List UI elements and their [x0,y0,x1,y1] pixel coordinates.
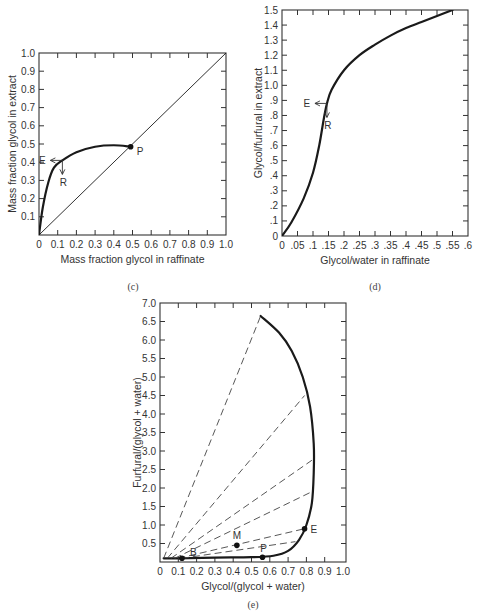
y-tick-label: 1.5 [264,5,278,16]
y-tick-label: 0.6 [21,120,35,131]
point-marker-p [260,554,266,560]
chart-c: 00.10.20.30.40.50.60.70.80.91.00.10.20.3… [6,48,233,294]
point-label-m: M [233,530,241,541]
x-tick-label: 0.7 [281,566,295,577]
chart-d: 0.05.1.15.2.25.3.35.4.45.5.55.60.1.2.3.4… [252,5,473,294]
x-tick-label: 0 [157,566,163,577]
y-tick-label: .6 [270,140,279,151]
y-axis-title: Glycol/furfural in extract [252,68,264,178]
y-tick-label: 1.3 [264,35,278,46]
y-tick-label: 0.5 [21,139,35,150]
plot-frame [160,303,346,562]
y-tick-label: 0.4 [21,157,35,168]
y-axis-title: Furfural/(glycol + water) [131,377,143,488]
point-marker-m [234,543,240,549]
x-tick-label: 0.9 [200,239,214,250]
curve-line [282,10,453,236]
x-tick-label: 1.0 [219,239,233,250]
y-tick-label: 1.0 [264,80,278,91]
x-tick-label: 0.4 [107,239,121,250]
point-label-r: R [324,120,331,131]
tie-line [164,316,261,558]
y-tick-label: 0.1 [21,211,35,222]
x-tick-label: 0.3 [88,239,102,250]
y-tick-label: 1.0 [21,48,35,59]
x-tick-label: .5 [433,240,442,251]
x-tick-label: .6 [464,240,473,251]
y-tick-label: .1 [270,215,279,226]
x-axis-title: Mass fraction glycol in raffinate [61,253,205,265]
x-tick-label: .3 [371,240,380,251]
y-tick-label: 0.5 [142,538,156,549]
x-tick-label: 0.9 [318,566,332,577]
x-tick-label: 0.1 [171,566,185,577]
y-tick-label: 3.5 [142,427,156,438]
x-tick-label: .15 [322,240,336,251]
x-tick-label: .35 [384,240,398,251]
y-tick-label: 2.0 [142,483,156,494]
point-label-e: E [39,155,46,166]
point-label-p: P [137,146,144,157]
x-tick-label: 0.5 [245,566,259,577]
x-tick-label: 0.1 [51,239,65,250]
y-tick-label: .9 [270,95,279,106]
chart-e: 00.10.20.30.40.50.60.70.80.91.00.51.01.5… [131,298,350,612]
point-label-b: B [190,547,197,558]
y-tick-label: 7.0 [142,298,156,309]
x-tick-label: 0.8 [182,239,196,250]
y-tick-label: 1.2 [264,50,278,61]
y-tick-label: 4.0 [142,409,156,420]
x-tick-label: .1 [309,240,318,251]
figure-caption: (d) [369,281,381,293]
x-tick-label: 0.6 [263,566,277,577]
x-tick-label: .25 [353,240,367,251]
point-label-e: E [304,98,311,109]
x-tick-label: .05 [291,240,305,251]
x-tick-label: 0.2 [190,566,204,577]
y-tick-label: 2.5 [142,464,156,475]
y-tick-label: 0.8 [21,84,35,95]
y-tick-label: 1.1 [264,65,278,76]
figure-caption: (e) [247,599,258,611]
y-tick-label: .3 [270,185,279,196]
x-tick-label: 0.6 [144,239,158,250]
point-marker-p [128,144,134,150]
y-tick-label: 5.5 [142,353,156,364]
y-tick-label: .2 [270,200,279,211]
x-tick-label: 0.7 [163,239,177,250]
y-tick-label: .5 [270,155,279,166]
figure-caption: (c) [127,281,138,293]
x-tick-label: 0.8 [299,566,313,577]
x-tick-label: 1.0 [336,566,350,577]
y-tick-label: 1.4 [264,20,278,31]
point-marker-e [302,526,308,532]
y-tick-label: 6.5 [142,316,156,327]
x-tick-label: 0 [36,239,42,250]
figure-canvas: 00.10.20.30.40.50.60.70.80.91.00.10.20.3… [0,0,477,613]
x-tick-label: .4 [402,240,411,251]
x-axis-title: Glycol/water in raffinate [320,254,430,266]
point-label-p: P [260,543,267,554]
y-tick-label: .8 [270,110,279,121]
y-tick-label: 5.0 [142,372,156,383]
y-tick-label: 1.5 [142,501,156,512]
point-label-r: R [60,177,67,188]
x-axis-title: Glycol/(glycol + water) [201,580,305,592]
point-label-e: E [311,524,318,535]
y-tick-label: 0.9 [21,66,35,77]
y-axis-title: Mass fraction glycol in extract [6,75,18,213]
x-tick-label: 0.2 [69,239,83,250]
x-tick-label: 0.3 [208,566,222,577]
x-tick-label: 0 [279,240,285,251]
y-tick-label: 0.2 [21,193,35,204]
x-tick-label: 0.5 [126,239,140,250]
y-tick-label: .4 [270,170,279,181]
point-marker-b [179,556,185,562]
curve-line [164,316,314,558]
tie-line [171,460,312,558]
diagonal-line [39,53,226,235]
y-tick-label: 6.0 [142,335,156,346]
y-tick-label: 3.0 [142,446,156,457]
y-tick-label: 0.3 [21,175,35,186]
x-tick-label: .45 [415,240,429,251]
